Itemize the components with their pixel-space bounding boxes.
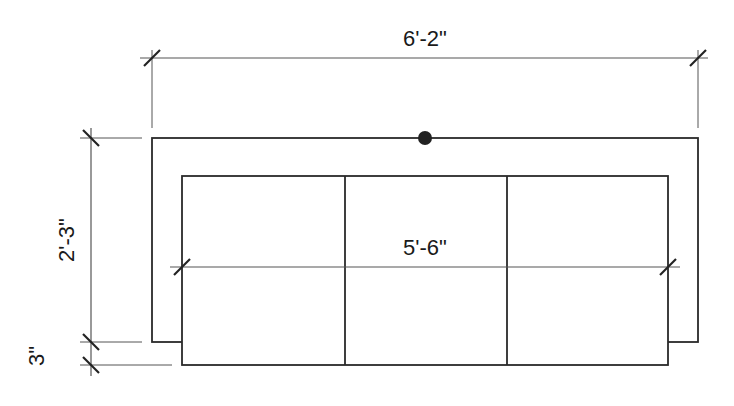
sofa-plan-drawing: 6'-2" 5'-6" 2'-3" 3" bbox=[0, 0, 734, 406]
base-offset-label: 3" bbox=[24, 346, 49, 366]
overall-width-dimension: 6'-2" bbox=[140, 26, 708, 128]
center-point-marker bbox=[418, 131, 432, 145]
overall-depth-dimension: 2'-3" 3" bbox=[24, 128, 172, 376]
overall-width-label: 6'-2" bbox=[403, 26, 447, 51]
overall-depth-label: 2'-3" bbox=[54, 218, 79, 262]
cushion-width-label: 5'-6" bbox=[403, 235, 447, 260]
seat-cushions bbox=[182, 176, 668, 365]
